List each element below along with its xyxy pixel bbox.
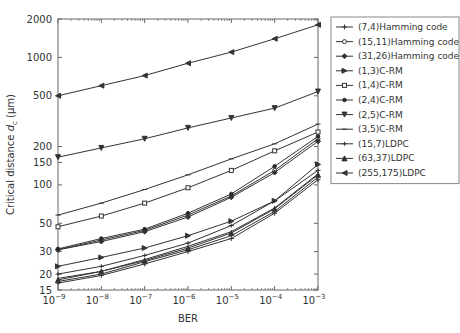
series-line (58, 175, 318, 280)
legend-label: (255,175)LDPC (358, 168, 426, 178)
series-line (58, 92, 318, 158)
series-layer (56, 22, 321, 285)
y-tick-label: 100 (33, 179, 52, 190)
axes: 10−910−810−710−610−510−410−3152030501001… (27, 14, 326, 307)
data-point (316, 89, 321, 94)
data-point (143, 201, 147, 205)
series-line (58, 136, 318, 248)
legend-label: (3,5)C-RM (358, 124, 403, 134)
series-line (58, 139, 318, 250)
data-point (316, 135, 320, 139)
series-12 (58, 177, 318, 281)
data-point (142, 136, 147, 141)
data-point (230, 192, 234, 196)
data-point (272, 106, 277, 111)
series-line (58, 177, 318, 281)
data-point (186, 211, 190, 215)
data-point (100, 237, 104, 241)
data-point (99, 145, 104, 150)
data-point (56, 155, 61, 160)
data-point (273, 164, 277, 168)
legend-label: (15,11)Hamming code (358, 37, 460, 47)
y-tick-label: 150 (33, 157, 52, 168)
y-tick-label: 50 (39, 218, 52, 229)
legend: (7,4)Hamming code(15,11)Hamming code(31,… (331, 17, 460, 184)
y-tick-label: 500 (33, 90, 52, 101)
data-point (186, 125, 191, 130)
data-point (56, 272, 61, 276)
series-5 (56, 135, 320, 251)
data-point (56, 247, 60, 251)
data-point (316, 22, 321, 27)
data-point (56, 93, 61, 98)
legend-label: (2,5)C-RM (358, 110, 403, 120)
legend-label: (2,4)C-RM (358, 95, 403, 105)
legend-label: (15,7)LDPC (358, 139, 409, 149)
legend-marker (343, 40, 347, 44)
legend-label: (1,4)C-RM (358, 80, 403, 90)
y-tick-label: 20 (39, 269, 52, 280)
data-point (316, 130, 320, 134)
legend-label: (7,4)Hamming code (358, 22, 448, 32)
y-tick-label: 30 (39, 246, 52, 257)
series-7 (56, 124, 321, 215)
y-tick-label: 2000 (27, 14, 52, 25)
x-tick-label: 10−4 (259, 293, 283, 306)
data-point (142, 253, 147, 257)
data-point (99, 83, 104, 88)
data-point (143, 227, 147, 231)
data-point (142, 73, 147, 78)
data-point (229, 219, 234, 224)
legend-label: (63,37)LDPC (358, 153, 414, 163)
data-point (186, 186, 190, 190)
series-10 (56, 22, 321, 98)
y-tick-label: 200 (33, 141, 52, 152)
data-point (99, 255, 104, 260)
data-point (99, 264, 104, 268)
y-tick-label: 1000 (27, 52, 52, 63)
x-tick-label: 10−6 (172, 293, 196, 306)
data-point (272, 36, 277, 41)
x-tick-label: 10−5 (216, 293, 239, 306)
data-point (56, 264, 61, 269)
data-point (186, 61, 191, 66)
data-point (99, 214, 103, 218)
x-tick-label: 10−3 (302, 293, 325, 306)
data-point (56, 225, 60, 229)
data-point (186, 233, 191, 238)
data-point (316, 162, 321, 167)
data-point (273, 149, 277, 153)
legend-label: (31,26)Hamming code (358, 51, 460, 61)
data-point (142, 246, 147, 251)
series-line (58, 25, 318, 96)
series-line (58, 141, 318, 250)
chart: 10−910−810−710−610−510−410−3152030501001… (0, 0, 460, 333)
x-tick-label: 10−8 (86, 293, 109, 306)
y-tick-label: 15 (39, 285, 52, 296)
x-axis-title: BER (178, 313, 198, 324)
y-axis-title: Critical distance dc (μm) (5, 94, 19, 215)
legend-label: (1,3)C-RM (358, 66, 403, 76)
data-point (229, 168, 233, 172)
data-point (229, 115, 234, 120)
series-6 (56, 89, 321, 160)
series-8 (56, 168, 321, 276)
legend-marker (343, 98, 347, 102)
data-point (229, 50, 234, 55)
legend-marker (343, 83, 347, 87)
series-0 (56, 177, 321, 285)
x-tick-label: 10−7 (129, 293, 152, 306)
